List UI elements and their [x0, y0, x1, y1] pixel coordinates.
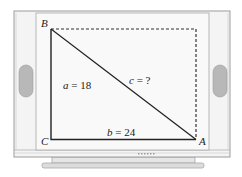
- side-b-label: b = 24: [107, 126, 136, 138]
- vertex-a-label: A: [198, 135, 206, 147]
- right-speaker-icon: [213, 65, 227, 97]
- tv-stand: [42, 157, 204, 168]
- vertex-c-label: C: [41, 135, 49, 147]
- side-a-label: a = 18: [63, 79, 92, 91]
- vertex-b-label: B: [41, 17, 48, 29]
- left-speaker-icon: [19, 65, 33, 97]
- side-c-label: c = ?: [129, 74, 151, 86]
- tv-diagram: B C A a = 18 c = ? b = 24: [0, 0, 242, 177]
